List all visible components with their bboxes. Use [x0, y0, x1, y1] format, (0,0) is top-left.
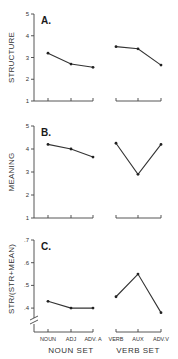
data-point [137, 47, 140, 50]
data-point [115, 295, 118, 298]
verb-set-label: VERB SET [116, 346, 160, 355]
y-axis-label: STR/(STR+MEAN) [7, 244, 16, 314]
y-tick-label: 4 [26, 146, 30, 152]
data-point [160, 143, 163, 146]
y-tick-label: 5 [26, 123, 30, 129]
y-tick-label: 1 [26, 98, 30, 104]
y-tick-label: 5 [26, 11, 30, 17]
y-tick-label: 2 [26, 76, 30, 82]
y-tick-label: 4 [26, 33, 30, 39]
data-point [70, 307, 73, 310]
data-point [47, 52, 50, 55]
data-point [47, 143, 50, 146]
category-label: NOUN [40, 336, 56, 342]
y-tick-label: 1 [26, 215, 30, 221]
y-tick-label: 3 [26, 55, 30, 61]
y-tick-label: .5 [24, 282, 30, 288]
data-point [92, 66, 95, 69]
panel-label: A. [41, 15, 51, 26]
panel-label: C. [41, 241, 51, 252]
category-label: AUX [132, 336, 144, 342]
data-point [70, 63, 73, 66]
figure: 12345A.STRUCTURE12345B.MEANING.4.5.6.7C.… [0, 0, 178, 359]
data-point [137, 273, 140, 276]
panel-a: 12345A.STRUCTURE [7, 11, 162, 104]
y-tick-label: .6 [24, 260, 30, 266]
y-tick-label: .7 [24, 237, 30, 243]
category-label: VERB [109, 336, 124, 342]
y-tick-label: .4 [24, 305, 30, 311]
noun-set-label: NOUN SET [48, 346, 93, 355]
data-point [47, 300, 50, 303]
panel-label: B. [41, 127, 51, 138]
data-point [92, 307, 95, 310]
data-point [137, 173, 140, 176]
data-point [115, 45, 118, 48]
data-point [115, 142, 118, 145]
category-label: ADV.V [153, 336, 169, 342]
category-label: ADJ [66, 336, 77, 342]
y-tick-label: 3 [26, 169, 30, 175]
series-line-1 [116, 274, 161, 313]
data-point [160, 64, 163, 67]
y-axis-label: STRUCTURE [7, 32, 16, 83]
data-point [160, 311, 163, 314]
data-point [92, 156, 95, 159]
series-line-1 [116, 143, 161, 174]
data-point [70, 148, 73, 151]
category-label: ADV. A [84, 336, 102, 342]
panel-c: .4.5.6.7C.STR/(STR+MEAN) [7, 237, 162, 332]
y-tick-label: 2 [26, 192, 30, 198]
panel-b: 12345B.MEANING [7, 123, 162, 221]
y-axis-label: MEANING [7, 153, 16, 192]
series-line-0 [48, 144, 93, 157]
